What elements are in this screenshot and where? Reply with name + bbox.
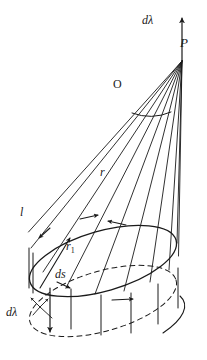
- dlambda-cross-arrows: [31, 298, 52, 318]
- cone-ray: [43, 61, 182, 272]
- label-solid-angle-o: O: [113, 78, 122, 90]
- loop-direction-arrow-lower-right: [112, 299, 133, 300]
- label-arc-ds: ds: [55, 268, 66, 280]
- loop-direction-arrow-left: [39, 228, 50, 238]
- cone-ray: [29, 61, 183, 232]
- cone-ray: [124, 61, 182, 291]
- label-r-one-subscript: 1: [71, 246, 75, 255]
- label-r-one: r1: [66, 240, 75, 255]
- lower-rim-solid-right: [163, 296, 185, 333]
- cone-ray-bundle: [29, 61, 183, 294]
- loop-direction-arrow-lower-left: [57, 282, 70, 288]
- label-apex-p: P: [180, 36, 188, 49]
- label-loop-l: l: [20, 206, 23, 218]
- label-dlambda-bottom: dλ: [6, 306, 17, 318]
- cone-ray: [66, 61, 182, 288]
- dlambda-arrow-upright: [40, 299, 48, 307]
- figure-root: dλ P O r l r1 ds dλ: [0, 0, 207, 360]
- dlambda-tick-downleft: [33, 307, 40, 315]
- loop-direction-arrow-upper-left: [80, 215, 98, 219]
- loop-direction-arrow-upper-right: [108, 221, 126, 225]
- label-dlambda-top: dλ: [142, 14, 153, 26]
- closed-loop-ellipse: [22, 211, 185, 311]
- dlambda-arrow-upleft: [31, 298, 40, 307]
- solid-angle-diagram-svg: [0, 0, 207, 360]
- label-ray-r: r: [100, 166, 105, 178]
